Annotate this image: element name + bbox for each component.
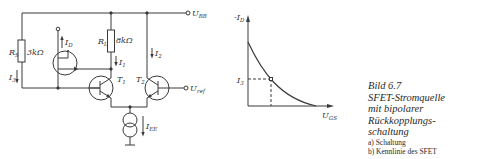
fet-drain-terminal — [56, 27, 60, 31]
operating-point — [270, 78, 273, 81]
ref-terminal — [184, 86, 188, 90]
svg-text:RS: RS — [8, 48, 19, 58]
figure-number: Bild 6.7 — [368, 80, 490, 92]
caption-part-b: b) Kennlinie des SFET — [368, 147, 490, 156]
svg-text:RL: RL — [97, 37, 108, 47]
caption-part-a: a) Schaltung — [368, 138, 490, 147]
characteristic-curve — [248, 42, 316, 106]
resistor-rs — [18, 40, 25, 62]
caption-title-1: SFET-Stromquelle — [368, 92, 490, 104]
svg-text:I2: I2 — [154, 49, 162, 59]
resistor-rl — [108, 30, 115, 52]
svg-text:8kΩ: 8kΩ — [116, 36, 133, 45]
svg-text:I1: I1 — [118, 58, 126, 68]
svg-text:Uref: Uref — [190, 84, 206, 95]
svg-text:UBB: UBB — [192, 9, 207, 19]
svg-text:IEE: IEE — [145, 122, 157, 132]
svg-text:3kΩ: 3kΩ — [27, 48, 44, 57]
supply-terminal — [186, 11, 190, 15]
caption-title-3: schaltung — [368, 126, 490, 138]
svg-text:I3: I3 — [236, 76, 244, 86]
caption-title-2: mit bipolarer Rückkopplungs- — [368, 103, 490, 126]
svg-text:T1: T1 — [117, 75, 126, 85]
svg-text:-ID: -ID — [234, 13, 245, 23]
svg-text:ID: ID — [64, 38, 73, 48]
figure-caption: Bild 6.7 SFET-Stromquelle mit bipolarer … — [368, 80, 490, 156]
svg-text:UGS: UGS — [322, 111, 337, 121]
fet-symbol — [53, 51, 77, 75]
svg-text:I3: I3 — [8, 73, 16, 83]
svg-text:T2: T2 — [136, 75, 145, 85]
